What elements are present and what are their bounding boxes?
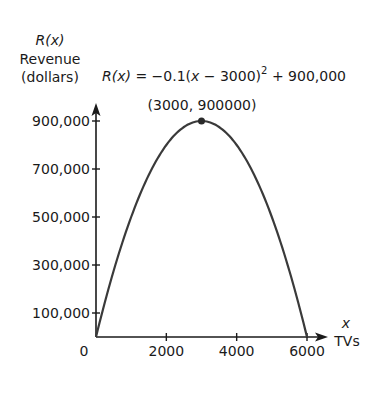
vertex-label: (3000, 900000): [148, 97, 257, 113]
vertex-point: [198, 118, 205, 125]
y-tick-label: 500,000: [32, 209, 90, 225]
x-axis-title: TVs: [333, 333, 359, 349]
y-tick-label: 300,000: [32, 257, 90, 273]
revenue-chart: R(x) Revenue (dollars) R(x) = −0.1(x − 3…: [0, 0, 374, 396]
equation-label: R(x) = −0.1(x − 3000)2 + 900,000: [102, 65, 346, 84]
y-axis-title-line2: (dollars): [21, 69, 79, 85]
x-tick-label: 2000: [149, 343, 185, 359]
y-axis-ticks: 100,000300,000500,000700,000900,000: [32, 113, 100, 321]
y-axis-title-line1: Revenue: [20, 51, 81, 67]
y-tick-label: 700,000: [32, 161, 90, 177]
y-axis-var-label: R(x): [36, 32, 65, 48]
revenue-curve: [96, 121, 307, 337]
x-tick-label: 6000: [289, 343, 325, 359]
y-tick-label: 100,000: [32, 305, 90, 321]
x-tick-label: 0: [80, 343, 89, 359]
y-tick-label: 900,000: [32, 113, 90, 129]
x-axis-var-label: x: [341, 315, 351, 331]
x-tick-label: 4000: [219, 343, 255, 359]
